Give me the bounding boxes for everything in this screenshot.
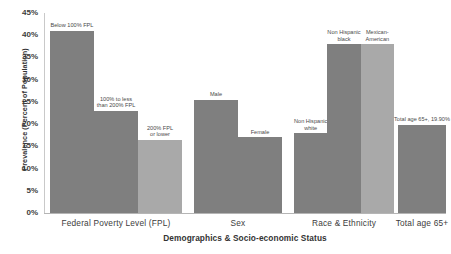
x-axis-category-labels: Federal Poverty Level (FPL)SexRace & Eth… — [44, 218, 446, 232]
bar-group: Total age 65+, 19.90% — [398, 13, 446, 213]
y-axis-tick-label: 10% — [2, 165, 38, 173]
bar-slot: Below 100% FPL — [50, 13, 94, 213]
x-axis-category-label: Total age 65+ — [378, 218, 451, 228]
bar-group: MaleFemale — [194, 13, 282, 213]
bar — [50, 31, 94, 213]
bar-slot: Male — [194, 13, 238, 213]
bar-value-label: Mexican- American — [351, 29, 403, 42]
bar — [398, 125, 446, 213]
y-axis-tick-label: 25% — [2, 98, 38, 106]
bar-slot: Mexican- American — [361, 13, 394, 213]
bar-slot: 200% FPL or lower — [138, 13, 182, 213]
bar — [238, 137, 282, 213]
bar-slot: Non Hispanic black — [327, 13, 360, 213]
bar — [361, 44, 394, 213]
y-axis-tick-label: 15% — [2, 142, 38, 150]
bar-value-label: 200% FPL or lower — [134, 125, 186, 138]
bar-chart: Prevalence (Percent of Population) 45%40… — [0, 0, 451, 254]
y-axis-tick-label: 40% — [2, 31, 38, 39]
bar — [94, 111, 138, 213]
y-axis-tick-label: 5% — [2, 187, 38, 195]
y-axis-tick-label: 30% — [2, 76, 38, 84]
bar — [138, 140, 182, 213]
bar — [294, 133, 327, 213]
y-axis-tick-label: 20% — [2, 120, 38, 128]
plot-area: 45%40%35%30%25%20%15%10%5%0% Below 100% … — [44, 13, 446, 214]
bar-value-label: Female — [234, 129, 286, 135]
y-axis-tick-label: 35% — [2, 53, 38, 61]
bar-value-label: 100% to less than 200% FPL — [90, 96, 142, 109]
bar-value-label: Below 100% FPL — [46, 22, 98, 28]
bar-value-label: Male — [190, 91, 242, 97]
bar-group: Below 100% FPL100% to less than 200% FPL… — [50, 13, 182, 213]
bar-slot: 100% to less than 200% FPL — [94, 13, 138, 213]
x-axis-title: Demographics & Socio-economic Status — [44, 233, 446, 243]
y-axis-tick-label: 45% — [2, 9, 38, 17]
bar-groups: Below 100% FPL100% to less than 200% FPL… — [44, 13, 446, 214]
bar-slot: Female — [238, 13, 282, 213]
bar-slot: Non Hispanic white — [294, 13, 327, 213]
bar-value-label: Total age 65+, 19.90% — [387, 116, 451, 122]
bar — [194, 100, 238, 213]
bar-slot: Total age 65+, 19.90% — [398, 13, 446, 213]
y-axis-tick-label: 0% — [2, 209, 38, 217]
bar-group: Non Hispanic whiteNon Hispanic blackMexi… — [294, 13, 394, 213]
bar — [327, 44, 360, 213]
